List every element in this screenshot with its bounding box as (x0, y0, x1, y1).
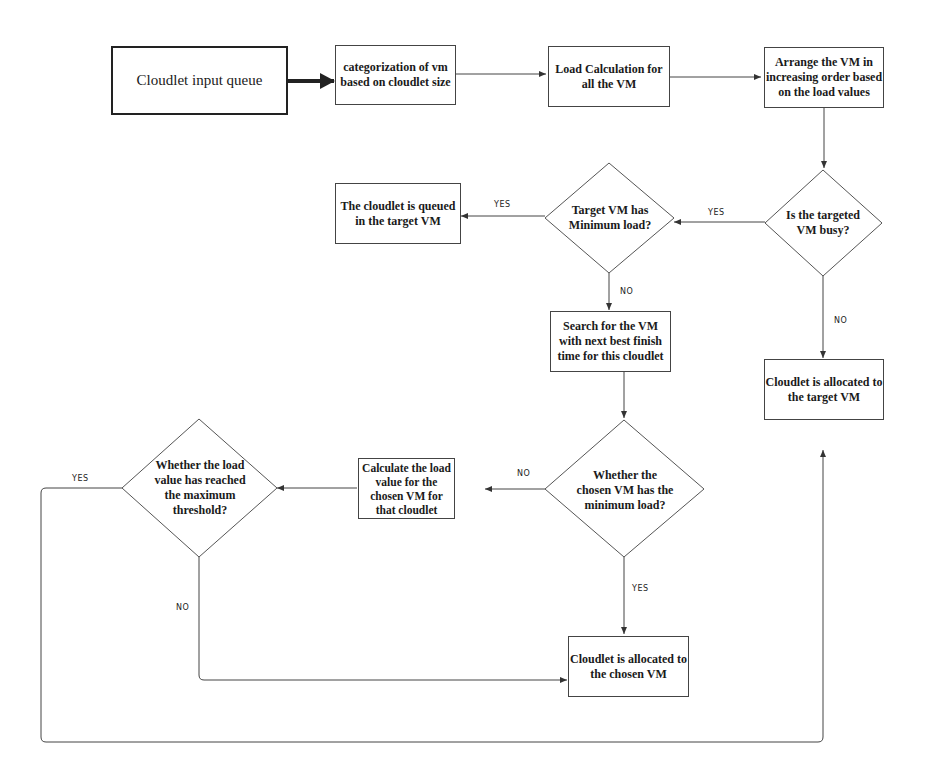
label-chosen-no: NO (517, 469, 530, 478)
label-chosen-yes: YES (632, 584, 649, 593)
label-min-yes: YES (494, 200, 511, 209)
decision-chosen-min-load: Whether the chosen VM has the minimum lo… (575, 459, 675, 521)
decision-vm-busy: Is the targeted VM busy? (780, 203, 866, 243)
label-threshold-yes: YES (72, 474, 89, 483)
label-busy-yes: YES (708, 208, 725, 217)
node-calc-chosen-load: Calculate the load value for the chosen … (358, 458, 455, 519)
node-load-calculation: Load Calculation for all the VM (548, 46, 670, 107)
label-min-no: NO (620, 287, 633, 296)
node-arrange-vm: Arrange the VM in increasing order based… (764, 47, 884, 108)
node-cloudlet-queued: The cloudlet is queued in the target VM (335, 183, 461, 244)
node-search-next-vm: Search for the VM with next best finish … (550, 311, 671, 372)
decision-threshold: Whether the load value has reached the m… (145, 457, 255, 519)
node-allocated-chosen: Cloudlet is allocated to the chosen VM (568, 636, 689, 697)
node-categorization: categorization of vm based on cloudlet s… (335, 45, 456, 105)
flowchart: Cloudlet input queue categorization of v… (0, 0, 926, 777)
node-allocated-target: Cloudlet is allocated to the target VM (764, 359, 884, 420)
label-busy-no: NO (834, 316, 847, 325)
decision-min-load: Target VM has Minimum load? (560, 198, 660, 238)
node-input-queue: Cloudlet input queue (111, 46, 288, 115)
label-threshold-no: NO (176, 603, 189, 612)
